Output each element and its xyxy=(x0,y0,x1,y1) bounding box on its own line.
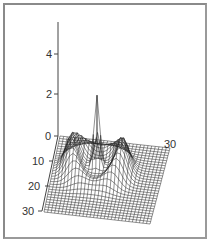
surface-plot: 4 2 0 10 20 30 30 xyxy=(0,0,214,246)
x-tick-30: 30 xyxy=(22,205,34,217)
z-tick-2: 2 xyxy=(46,88,52,100)
wireframe-mesh xyxy=(44,95,170,224)
x-tick-20: 20 xyxy=(28,180,40,192)
z-tick-4: 4 xyxy=(46,48,52,60)
z-tick-0: 0 xyxy=(45,130,51,142)
x-tick-10: 10 xyxy=(32,155,44,167)
